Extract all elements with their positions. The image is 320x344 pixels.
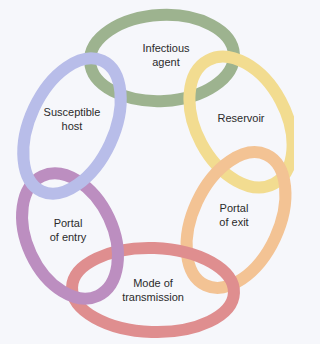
label-reservoir: Reservoir: [217, 111, 264, 125]
label-portal-of-entry: Portal of entry: [50, 216, 87, 244]
label-mode-of-transmission: Mode of transmission: [122, 276, 184, 304]
label-infectious-agent: Infectious agent: [142, 41, 189, 69]
label-susceptible-host: Susceptible host: [44, 105, 101, 133]
label-portal-of-exit: Portal of exit: [219, 201, 248, 229]
